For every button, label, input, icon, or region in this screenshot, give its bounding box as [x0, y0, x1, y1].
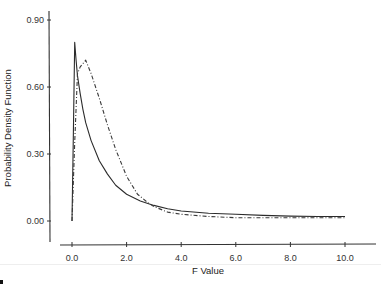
corner-scan-mark: [0, 280, 3, 284]
y-axis-title: Probability Density Function: [2, 69, 13, 187]
x-tick-label: 6.0: [230, 253, 243, 263]
y-tick-label: 0.00: [26, 216, 44, 226]
pdf-line-chart: 0.000.300.600.90 0.02.04.06.08.010.0 Pro…: [0, 0, 381, 284]
x-tick-label: 2.0: [120, 253, 133, 263]
x-tick-label: 0.0: [66, 253, 79, 263]
x-axis: 0.02.04.06.08.010.0: [60, 242, 376, 263]
series-layer: [72, 42, 345, 221]
x-tick-label: 10.0: [336, 253, 354, 263]
x-tick-label: 8.0: [284, 253, 297, 263]
series-dash-dot-line: [72, 60, 345, 221]
y-tick-label: 0.30: [26, 149, 44, 159]
x-axis-title: F Value: [192, 265, 224, 276]
y-axis: 0.000.300.600.90: [26, 11, 51, 242]
series-solid-line: [72, 42, 345, 221]
y-tick-label: 0.90: [26, 15, 44, 25]
x-tick-label: 4.0: [175, 253, 188, 263]
scan-artifact-line: [0, 264, 381, 265]
y-tick-label: 0.60: [26, 82, 44, 92]
